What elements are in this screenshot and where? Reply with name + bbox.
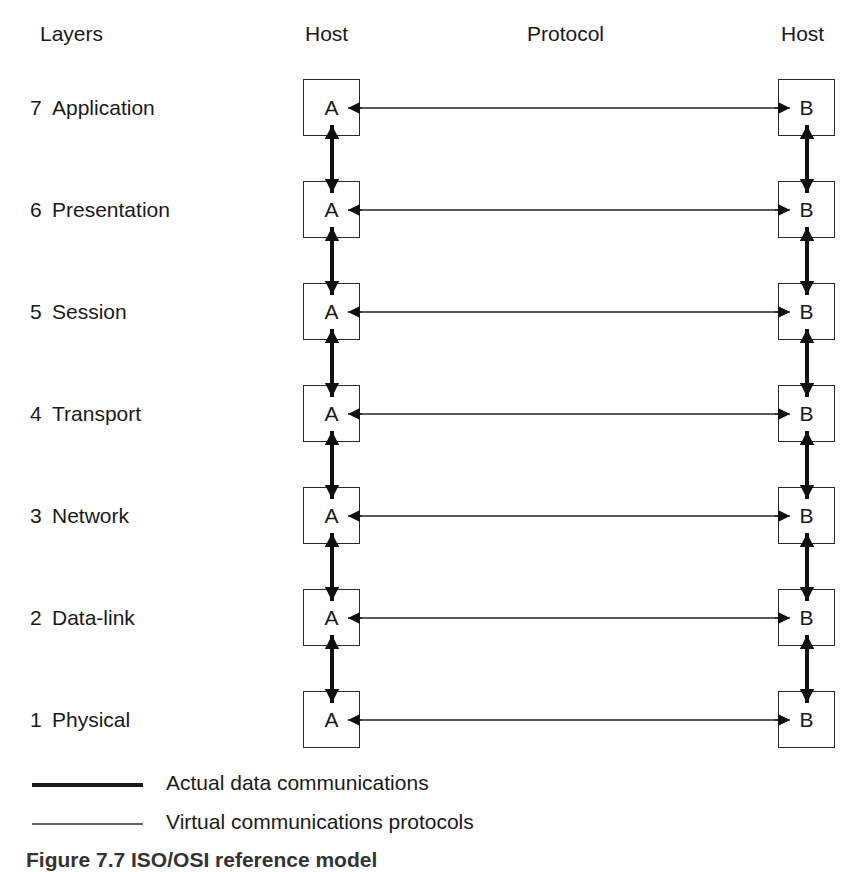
legend-actual-label: Actual data communications: [166, 771, 429, 795]
legend-virtual-label: Virtual communications protocols: [166, 810, 474, 834]
figure-caption: Figure 7.7 ISO/OSI reference model: [26, 848, 377, 872]
